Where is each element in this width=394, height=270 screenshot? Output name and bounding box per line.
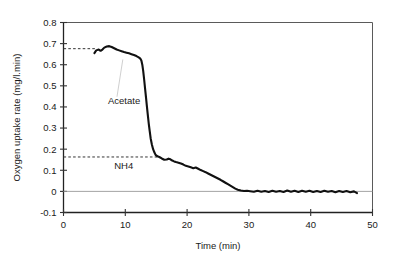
y-tick-label-9: 0.8 xyxy=(43,17,56,28)
reference-lines xyxy=(64,49,373,192)
x-tick-label-1: 10 xyxy=(120,219,131,230)
acetate-leader-line xyxy=(117,59,123,96)
series-line-0 xyxy=(94,46,357,193)
oxygen-uptake-rate-chart: -0.100.10.20.30.40.50.60.70.8 0102030405… xyxy=(0,0,394,270)
data-series-group xyxy=(94,46,357,193)
nh4-annotation-label: NH4 xyxy=(114,160,133,171)
x-tick-label-5: 50 xyxy=(367,219,378,230)
figure-container: -0.100.10.20.30.40.50.60.70.8 0102030405… xyxy=(0,0,394,270)
y-tick-label-2: 0.1 xyxy=(43,165,56,176)
y-tick-label-7: 0.6 xyxy=(43,59,56,70)
x-tick-label-4: 40 xyxy=(305,219,316,230)
x-axis-title: Time (min) xyxy=(195,240,240,251)
y-tick-label-4: 0.3 xyxy=(43,122,56,133)
y-tick-label-8: 0.7 xyxy=(43,38,56,49)
x-axis-tick-labels: 01020304050 xyxy=(61,219,378,230)
y-tick-label-5: 0.4 xyxy=(43,101,56,112)
y-tick-label-3: 0.2 xyxy=(43,144,56,155)
y-axis-title: Oxygen uptake rate (mg/l.min) xyxy=(11,54,22,182)
x-tick-label-3: 30 xyxy=(244,219,255,230)
chart-annotations: AcetateNH4 xyxy=(108,59,140,171)
y-axis-tick-labels: -0.100.10.20.30.40.50.60.70.8 xyxy=(40,17,56,218)
y-tick-label-6: 0.5 xyxy=(43,80,56,91)
acetate-annotation-label: Acetate xyxy=(108,95,140,106)
y-tick-label-1: 0 xyxy=(51,186,56,197)
y-tick-label-0: -0.1 xyxy=(40,207,56,218)
x-tick-label-0: 0 xyxy=(61,219,66,230)
plot-frame xyxy=(64,23,373,213)
x-tick-label-2: 20 xyxy=(182,219,193,230)
